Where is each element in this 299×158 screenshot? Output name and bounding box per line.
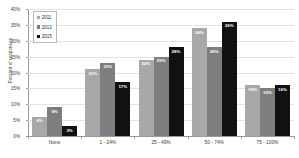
bar-2011[interactable]: 24% — [139, 60, 154, 136]
y-tick-label: 15% — [0, 86, 20, 91]
bar-group: 21%23%17% — [81, 9, 134, 136]
bar-value-label: 6% — [32, 118, 47, 123]
legend-label: 2011 — [42, 15, 52, 20]
bar-2011[interactable]: 6% — [32, 117, 47, 136]
bar-2011[interactable]: 34% — [192, 28, 207, 136]
legend-swatch-icon — [37, 25, 40, 28]
y-tick-label: 5% — [0, 118, 20, 123]
x-tick-label: None — [28, 140, 81, 145]
bar-value-label: 3% — [62, 128, 77, 133]
bar-value-label: 17% — [115, 84, 130, 89]
chart-legend: 201120132015 — [33, 11, 57, 43]
bar-group: 34%28%36% — [188, 9, 241, 136]
bar-value-label: 25% — [154, 58, 169, 63]
y-tick-label: 30% — [0, 38, 20, 43]
legend-label: 2015 — [42, 34, 52, 39]
bar-2015[interactable]: 3% — [62, 126, 77, 136]
x-axis-tickmarks — [28, 136, 294, 139]
bar-2013[interactable]: 25% — [154, 57, 169, 136]
bar-2011[interactable]: 21% — [85, 69, 100, 136]
y-tick-label: 35% — [0, 22, 20, 27]
x-tickmark — [28, 136, 29, 139]
bar-chart: Percent of responses 40%35%30%25%20%15%1… — [0, 0, 299, 158]
x-tickmark — [188, 136, 189, 139]
x-tickmark — [81, 136, 82, 139]
bar-value-label: 21% — [85, 71, 100, 76]
bar-value-label: 23% — [100, 64, 115, 69]
bar-2015[interactable]: 36% — [222, 22, 237, 136]
legend-label: 2013 — [42, 25, 52, 30]
legend-item[interactable]: 2011 — [37, 15, 52, 20]
bar-value-label: 15% — [260, 90, 275, 95]
legend-swatch-icon — [37, 16, 40, 19]
bar-value-label: 16% — [275, 87, 290, 92]
bar-value-label: 34% — [192, 30, 207, 35]
bar-value-label: 28% — [207, 49, 222, 54]
x-tick-label: 25 - 49% — [134, 140, 187, 145]
y-tick-label: 0% — [0, 134, 20, 139]
x-tickmark — [134, 136, 135, 139]
legend-item[interactable]: 2015 — [37, 34, 52, 39]
bar-2013[interactable]: 23% — [100, 63, 115, 136]
bar-2015[interactable]: 16% — [275, 85, 290, 136]
bar-value-label: 36% — [222, 23, 237, 28]
x-axis-labels: None1 - 24%25 - 49%50 - 74%75 - 100% — [28, 140, 294, 145]
bar-2013[interactable]: 28% — [207, 47, 222, 136]
x-tickmark — [241, 136, 242, 139]
bar-value-label: 16% — [245, 87, 260, 92]
bar-value-label: 24% — [139, 61, 154, 66]
bar-2013[interactable]: 15% — [260, 88, 275, 136]
plot-area: 6%9%3%21%23%17%24%25%28%34%28%36%16%15%1… — [28, 9, 294, 136]
bar-2011[interactable]: 16% — [245, 85, 260, 136]
bar-group: 24%25%28% — [134, 9, 187, 136]
y-tick-label: 10% — [0, 102, 20, 107]
bar-value-label: 28% — [169, 49, 184, 54]
y-tick-label: 40% — [0, 7, 20, 12]
x-tick-label: 1 - 24% — [81, 140, 134, 145]
bar-2015[interactable]: 28% — [169, 47, 184, 136]
x-tick-label: 75 - 100% — [241, 140, 294, 145]
bar-2013[interactable]: 9% — [47, 107, 62, 136]
legend-swatch-icon — [37, 35, 40, 38]
bar-value-label: 9% — [47, 109, 62, 114]
y-tick-label: 25% — [0, 54, 20, 59]
legend-item[interactable]: 2013 — [37, 25, 52, 30]
bar-group: 16%15%16% — [241, 9, 294, 136]
bar-2015[interactable]: 17% — [115, 82, 130, 136]
x-tickmark — [294, 136, 295, 139]
x-tick-label: 50 - 74% — [188, 140, 241, 145]
y-tick-label: 20% — [0, 70, 20, 75]
bar-groups: 6%9%3%21%23%17%24%25%28%34%28%36%16%15%1… — [28, 9, 294, 136]
